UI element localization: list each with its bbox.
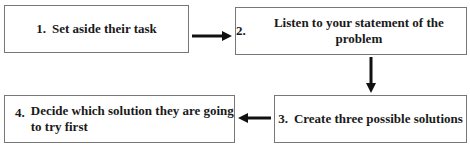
step-4-box: 4. Decide which solution they are going … xyxy=(4,95,235,143)
arrow-right-icon xyxy=(191,30,233,42)
step-1-box: 1. Set aside their task xyxy=(4,5,189,53)
step-2-box: 2. Listen to your statement of the probl… xyxy=(235,7,467,55)
arrow-left-icon xyxy=(237,112,272,124)
step-2-number: 2. xyxy=(236,23,246,39)
arrow-down-icon xyxy=(365,57,377,94)
step-4-text-line1: Decide which solution they are going xyxy=(31,103,234,119)
step-3-box: 3. Create three possible solutions xyxy=(274,95,467,143)
step-1-number: 1. xyxy=(36,21,46,37)
step-2-text: Listen to your statement of the problem xyxy=(252,15,466,47)
step-3-number: 3. xyxy=(278,111,288,127)
step-4-text: Decide which solution they are going to … xyxy=(31,103,234,135)
step-4-text-line2: to try first xyxy=(31,119,234,135)
step-3-text: Create three possible solutions xyxy=(294,111,463,127)
step-1-text: Set aside their task xyxy=(52,21,157,37)
step-4-number: 4. xyxy=(15,105,25,121)
